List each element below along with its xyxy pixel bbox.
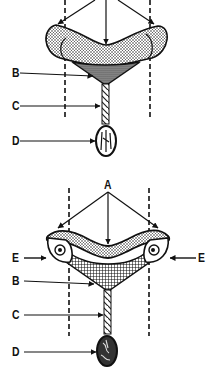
bottom-label-a: A — [104, 178, 112, 191]
left-eye-shape — [48, 238, 72, 262]
bottom-label-d: D — [12, 345, 20, 358]
top-stalk-shape — [102, 84, 109, 124]
bottom-label-c: C — [12, 308, 20, 321]
top-label-d: D — [12, 134, 20, 147]
top-cone-shape — [72, 62, 140, 84]
bottom-stalk-shape — [104, 290, 111, 334]
bottom-label-e-left: E — [12, 251, 19, 264]
bottom-panel — [24, 188, 196, 366]
right-eye-shape — [144, 238, 168, 262]
bottom-label-b: B — [12, 274, 20, 287]
bottom-label-e-right: E — [198, 251, 205, 264]
top-panel — [20, 0, 167, 156]
top-label-b: B — [12, 66, 20, 79]
top-label-c: C — [12, 99, 20, 112]
diagram-canvas — [0, 0, 221, 390]
